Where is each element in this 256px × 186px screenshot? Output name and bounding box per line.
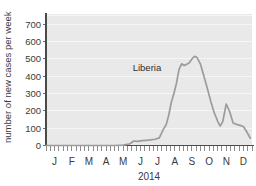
series-label-liberia: Liberia <box>133 62 162 73</box>
y-tick-label: 100 <box>25 123 41 134</box>
x-tick-label-j-0: J <box>52 156 57 167</box>
y-tick-label: 400 <box>25 71 41 82</box>
x-axis-tick-labels: JFMAMJJASOND <box>52 156 247 167</box>
chart-container: 0100200300400500600700 JFMAMJJASOND Libe… <box>0 0 256 186</box>
y-axis-ticks: 0100200300400500600700 <box>25 19 46 151</box>
line-chart: 0100200300400500600700 JFMAMJJASOND Libe… <box>0 0 256 186</box>
x-axis-title: 2014 <box>138 171 161 182</box>
x-tick-label-m-4: M <box>119 156 127 167</box>
x-tick-label-f-1: F <box>69 156 75 167</box>
x-tick-label-j-6: J <box>155 156 160 167</box>
y-tick-label: 0 <box>36 140 41 151</box>
y-tick-label: 600 <box>25 36 41 47</box>
x-tick-label-m-2: M <box>85 156 93 167</box>
y-tick-label: 200 <box>25 105 41 116</box>
x-tick-label-s-8: S <box>189 156 196 167</box>
x-tick-label-d-11: D <box>240 156 247 167</box>
x-tick-label-a-7: A <box>171 156 178 167</box>
x-tick-label-a-3: A <box>103 156 110 167</box>
y-tick-label: 300 <box>25 88 41 99</box>
y-axis-title: number of new cases per week <box>2 11 13 143</box>
x-tick-label-n-10: N <box>223 156 230 167</box>
x-tick-label-j-5: J <box>138 156 143 167</box>
y-tick-label: 700 <box>25 19 41 30</box>
y-tick-label: 500 <box>25 53 41 64</box>
x-tick-label-o-9: O <box>205 156 213 167</box>
